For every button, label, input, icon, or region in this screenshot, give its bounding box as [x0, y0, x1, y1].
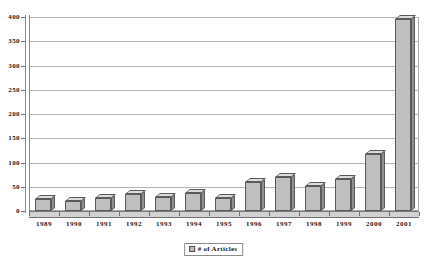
x-axis-tick	[269, 212, 270, 216]
x-axis-label: 1996	[239, 220, 269, 229]
x-axis-label: 1994	[179, 220, 209, 229]
x-axis-tick	[179, 212, 180, 216]
x-axis-tick	[329, 212, 330, 216]
legend-swatch-icon	[189, 246, 195, 252]
x-axis-tick	[299, 212, 300, 216]
x-axis-label: 1989	[29, 220, 59, 229]
x-axis-label: 1990	[59, 220, 89, 229]
x-axis-tick	[359, 212, 360, 216]
bar-chart: 050100150200250300350400 198919901991199…	[0, 0, 427, 267]
x-axis-label: 1991	[89, 220, 119, 229]
x-axis-tick	[89, 212, 90, 216]
x-axis-label: 1993	[149, 220, 179, 229]
x-axis-tick	[419, 212, 420, 216]
x-axis-label: 1995	[209, 220, 239, 229]
x-axis-label: 1998	[299, 220, 329, 229]
x-axis-label: 2000	[359, 220, 389, 229]
x-axis: 1989199019911992199319941995199619971998…	[0, 0, 427, 267]
x-axis-label: 1999	[329, 220, 359, 229]
x-axis-tick	[29, 212, 30, 216]
x-axis-label: 2001	[389, 220, 419, 229]
x-axis-tick	[119, 212, 120, 216]
x-axis-tick	[209, 212, 210, 216]
x-axis-tick	[389, 212, 390, 216]
x-axis-label: 1997	[269, 220, 299, 229]
legend: # of Articles	[184, 243, 244, 256]
x-axis-tick	[59, 212, 60, 216]
x-axis-tick	[149, 212, 150, 216]
legend-label: # of Articles	[198, 245, 238, 253]
x-axis-tick	[239, 212, 240, 216]
x-axis-label: 1992	[119, 220, 149, 229]
